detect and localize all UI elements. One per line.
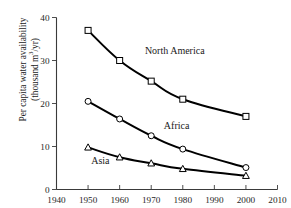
y-tick-label: 40 — [40, 13, 50, 23]
x-tick-label: 1960 — [110, 195, 129, 205]
data-series — [85, 27, 249, 119]
y-axis-tick-labels: 010203040 — [40, 13, 50, 195]
series-annotation-label: Asia — [91, 155, 110, 166]
plot-canvas: 010203040 194019501960197019801990200020… — [0, 0, 291, 208]
y-tick-label: 20 — [40, 99, 50, 109]
data-marker-circle — [180, 146, 186, 152]
x-tick-label: 1980 — [174, 195, 193, 205]
axes: 010203040 194019501960197019801990200020… — [40, 13, 287, 205]
data-marker-circle — [243, 165, 249, 171]
series-annotation-label: Africa — [164, 120, 190, 131]
data-marker-circle — [85, 98, 91, 104]
x-tick-label: 1940 — [47, 195, 66, 205]
x-axis-tick-labels: 19401950196019701980199020002010 — [47, 195, 287, 205]
series-line — [88, 30, 246, 116]
x-tick-label: 1970 — [142, 195, 161, 205]
data-marker-square — [148, 78, 154, 84]
data-series — [85, 98, 249, 170]
data-marker-square — [180, 96, 186, 102]
y-axis-ticks — [52, 18, 57, 190]
series-annotation-label: North America — [145, 45, 205, 56]
data-marker-square — [243, 113, 249, 119]
x-axis-ticks — [57, 185, 278, 190]
data-marker-triangle — [85, 144, 92, 150]
y-tick-label: 30 — [40, 56, 50, 66]
y-tick-label: 0 — [45, 185, 50, 195]
data-marker-circle — [117, 116, 123, 122]
x-tick-label: 2010 — [268, 195, 287, 205]
data-marker-circle — [148, 133, 154, 139]
data-marker-square — [85, 27, 91, 33]
series-annotations: North AmericaAfricaAsia — [91, 45, 205, 166]
x-tick-label: 1950 — [79, 195, 98, 205]
chart-figure: Per capita water availability (thousand … — [0, 0, 291, 208]
data-marker-square — [117, 58, 123, 64]
x-tick-label: 2000 — [237, 195, 256, 205]
x-tick-label: 1990 — [205, 195, 224, 205]
y-tick-label: 10 — [40, 142, 50, 152]
